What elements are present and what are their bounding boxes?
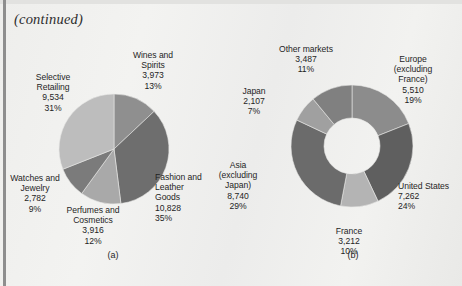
pie-a-caption: (a) [85,250,141,260]
donut-b-label-united-states: United States 7,262 24% [398,181,462,212]
left-margin-rule [3,0,6,286]
pie-a-label-selective-retailing: Selective Retailing 9,534 31% [20,72,86,113]
donut-b-caption: (b) [325,250,381,260]
donut-b-label-europe-excluding-france: Europe (excluding France) 5,510 19% [381,54,445,105]
donut-b-label-other-markets: Other markets 3,487 11% [266,44,346,75]
top-edge-shade [0,0,462,4]
pie-a-label-watches-and-jewelry: Watches and Jewelry 2,782 9% [2,173,68,214]
slice-asia-excluding-japan [291,120,347,206]
continued-note: (continued) [14,11,83,28]
figure-page: (continued) Wines and Spirits 3,973 13% … [0,0,462,286]
donut-b-label-asia-excluding-japan: Asia (excluding Japan) 8,740 29% [207,160,269,211]
donut-b-label-japan: Japan 2,107 7% [231,86,277,117]
pie-a-label-wines-and-spirits: Wines and Spirits 3,973 13% [116,50,190,91]
